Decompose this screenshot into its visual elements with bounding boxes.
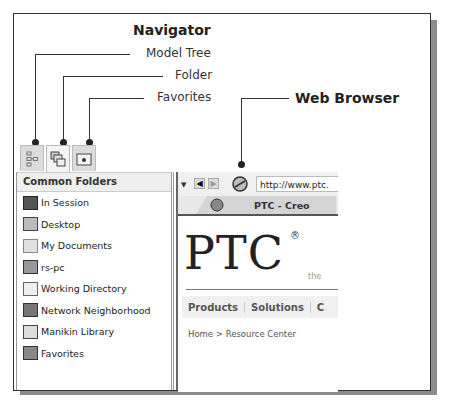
registered-mark: ® — [290, 230, 300, 241]
browser-tab-bar: PTC - Creo — [178, 196, 338, 214]
callout-line — [35, 54, 36, 142]
desktop-icon — [23, 217, 38, 231]
callout-line — [89, 98, 144, 99]
forward-arrow-icon: ▶ — [210, 179, 216, 188]
favorites-tab[interactable] — [72, 145, 96, 171]
forward-button[interactable]: ▶ — [208, 178, 219, 189]
common-folders-header: Common Folders — [17, 172, 171, 192]
model-tree-callout: Model Tree — [146, 46, 211, 60]
browser-tab[interactable]: PTC - Creo — [196, 196, 336, 214]
model-tree-tab[interactable] — [20, 145, 44, 171]
folder-working-directory[interactable]: Working Directory — [17, 278, 171, 300]
nav-solutions[interactable]: Solutions — [245, 302, 311, 313]
navigator-callout: Navigator — [133, 22, 211, 38]
callout-dot — [238, 161, 245, 168]
site-nav: Products Solutions C — [182, 296, 338, 318]
callout-line — [63, 76, 163, 77]
url-field[interactable]: http://www.ptc. — [256, 176, 338, 192]
computer-icon — [23, 260, 38, 274]
folder-in-session[interactable]: In Session — [17, 192, 171, 214]
documents-icon — [23, 239, 38, 253]
navigator-tabs — [16, 145, 174, 172]
library-icon — [23, 325, 38, 339]
folder-desktop[interactable]: Desktop — [17, 214, 171, 236]
favorites-callout: Favorites — [157, 90, 211, 104]
callout-line — [63, 76, 64, 142]
web-browser: ▼ ◀ ▶ http://www.ptc. PTC - Creo PTC ® t… — [176, 172, 430, 390]
callout-line — [35, 54, 130, 55]
folder-rs-pc[interactable]: rs-pc — [17, 257, 171, 279]
callout-line — [241, 98, 289, 99]
model-tree-icon — [25, 151, 39, 167]
folder-my-documents[interactable]: My Documents — [17, 235, 171, 257]
ptc-logo: PTC — [184, 226, 284, 280]
tagline: the — [308, 272, 321, 281]
navigator-panel: Common Folders In Session Desktop My Doc… — [16, 172, 174, 390]
nav-products[interactable]: Products — [182, 302, 245, 313]
nav-more[interactable]: C — [311, 302, 330, 313]
divider — [186, 289, 338, 290]
folder-tab[interactable] — [46, 145, 70, 172]
back-arrow-icon: ◀ — [196, 179, 202, 188]
favorites-icon — [76, 152, 92, 166]
favorites-folder-icon — [23, 346, 38, 360]
folder-network-neighborhood[interactable]: Network Neighborhood — [17, 300, 171, 322]
dropdown-arrow-icon[interactable]: ▼ — [181, 181, 186, 189]
callout-line — [89, 98, 90, 142]
globe-icon — [210, 198, 224, 212]
working-directory-icon — [23, 282, 38, 296]
breadcrumb[interactable]: Home > Resource Center — [188, 329, 296, 339]
browser-content: PTC ® the Products Solutions C Home > Re… — [178, 214, 338, 392]
browser-toolbar: ▼ ◀ ▶ http://www.ptc. — [178, 172, 338, 196]
network-icon — [23, 303, 38, 317]
monitor-icon — [23, 196, 38, 210]
folder-callout: Folder — [175, 68, 212, 82]
folder-browser-icon — [50, 151, 66, 167]
web-browser-callout: Web Browser — [295, 90, 399, 106]
folder-favorites[interactable]: Favorites — [17, 343, 171, 365]
callout-line — [241, 98, 242, 162]
folder-manikin-library[interactable]: Manikin Library — [17, 321, 171, 343]
back-button[interactable]: ◀ — [194, 178, 205, 189]
refresh-globe-icon[interactable] — [232, 176, 248, 192]
